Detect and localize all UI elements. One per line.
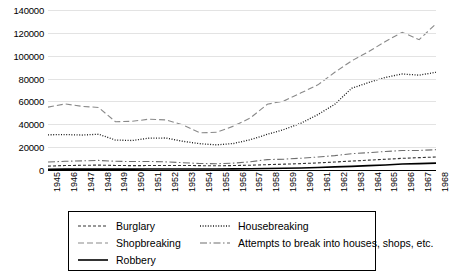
x-axis-tick-1950: 1950 (136, 172, 146, 192)
x-axis-tick-labels: 1945194619471948194919501951195219531954… (48, 172, 436, 205)
legend-item-label: Robbery (116, 254, 156, 266)
x-axis-tick-1958: 1958 (271, 172, 281, 192)
gridline-2 (48, 124, 436, 125)
gridline-5 (48, 56, 436, 57)
y-axis-tick-3: 60000 (19, 96, 44, 107)
gridline-3 (48, 101, 436, 102)
x-axis-tick-1951: 1951 (153, 172, 163, 192)
x-axis-tick-1946: 1946 (69, 172, 79, 192)
y-axis-tick-4: 80000 (19, 73, 44, 84)
y-axis-tick-7: 140000 (13, 5, 44, 16)
legend-line-sample (77, 221, 109, 231)
legend-line-sample (77, 255, 109, 265)
y-axis-tick-2: 40000 (19, 119, 44, 130)
x-axis-tick-1965: 1965 (389, 172, 399, 192)
series-line-housebreaking (48, 72, 436, 145)
x-axis-tick-1947: 1947 (86, 172, 96, 192)
x-axis-tick-1954: 1954 (204, 172, 214, 192)
x-axis-line (48, 170, 436, 171)
series-line-robbery (48, 163, 436, 169)
x-axis-tick-1961: 1961 (322, 172, 332, 192)
x-axis-tick-1955: 1955 (221, 172, 231, 192)
y-axis-tick-5: 100000 (13, 50, 44, 61)
legend-item-label: Housebreaking (238, 220, 309, 232)
legend-item-housebreaking[interactable]: Housebreaking (199, 220, 309, 232)
x-axis-tick-1959: 1959 (288, 172, 298, 192)
plot-region: 020000400006000080000100000120000140000 … (0, 0, 444, 205)
x-axis-tick-1967: 1967 (423, 172, 433, 192)
x-axis-tick-1956: 1956 (238, 172, 248, 192)
plot-area (48, 10, 436, 170)
x-axis-tick-1962: 1962 (339, 172, 349, 192)
data-series-lines (48, 10, 436, 170)
legend-item-label: Attempts to break into houses, shops, et… (238, 237, 434, 249)
gridline-1 (48, 147, 436, 148)
x-axis-tick-1960: 1960 (305, 172, 315, 192)
x-axis-tick-1963: 1963 (356, 172, 366, 192)
x-axis-tick-1964: 1964 (373, 172, 383, 192)
legend-item-label: Shopbreaking (116, 237, 181, 249)
gridline-6 (48, 33, 436, 34)
chart-legend: BurglaryHousebreakingShopbreakingAttempt… (68, 211, 376, 271)
x-axis-tick-1952: 1952 (170, 172, 180, 192)
legend-item-label: Burglary (116, 220, 155, 232)
y-axis-tick-6: 120000 (13, 27, 44, 38)
y-axis-tick-1: 20000 (19, 142, 44, 153)
x-axis-tick-1968: 1968 (440, 172, 450, 192)
x-axis-tick-1953: 1953 (187, 172, 197, 192)
legend-item-shopbreaking[interactable]: Shopbreaking (77, 237, 199, 249)
legend-line-sample (77, 238, 109, 248)
series-line-attempts-to-break-into-houses-shops-etc (48, 150, 436, 164)
gridline-7 (48, 10, 436, 11)
legend-item-attempts-to-break-into-houses-shops-etc[interactable]: Attempts to break into houses, shops, et… (199, 237, 434, 249)
legend-item-burglary[interactable]: Burglary (77, 220, 199, 232)
gridline-4 (48, 79, 436, 80)
legend-line-sample (199, 221, 231, 231)
legend-row-2: Robbery (77, 251, 369, 268)
x-axis-tick-1945: 1945 (52, 172, 62, 192)
legend-line-sample (199, 238, 231, 248)
y-axis-tick-labels: 020000400006000080000100000120000140000 (0, 0, 46, 180)
y-axis-tick-0: 0 (39, 165, 44, 176)
x-axis-tick-1957: 1957 (254, 172, 264, 192)
legend-item-robbery[interactable]: Robbery (77, 254, 199, 266)
x-axis-tick-1948: 1948 (103, 172, 113, 192)
x-axis-tick-1949: 1949 (119, 172, 129, 192)
legend-row-1: ShopbreakingAttempts to break into house… (77, 234, 369, 251)
legend-row-0: BurglaryHousebreaking (77, 217, 369, 234)
x-axis-tick-1966: 1966 (406, 172, 416, 192)
